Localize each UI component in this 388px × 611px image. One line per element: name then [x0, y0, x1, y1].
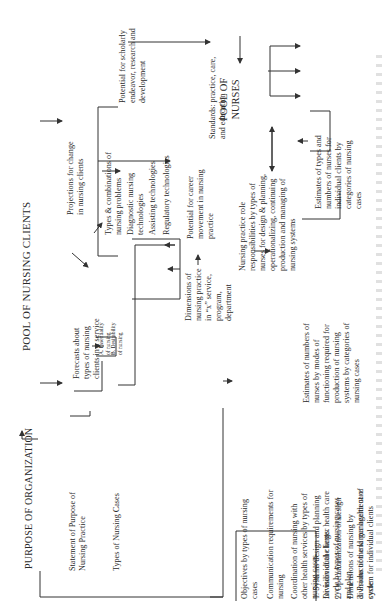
text-line: Nursing practice role	[238, 174, 248, 271]
node-standards: Standards: practice, care, and education	[208, 57, 228, 139]
text-line: Coordination of nursing with	[290, 493, 300, 599]
node-role-responsibilities: Nursing practice role responsibilities b…	[238, 174, 298, 271]
diagram-canvas: POOL OF NURSING CLIENTS PURPOSE OF ORGAN…	[0, 0, 388, 611]
text-line: production and managing of	[278, 174, 288, 271]
text-line: functioning required for	[322, 323, 332, 403]
text-line: nursing problems	[114, 152, 124, 235]
text-line: other health services by types of	[300, 493, 310, 599]
text-line: Projections for change	[66, 141, 76, 215]
node-types-of-nursing-cases: Types of Nursing Cases	[112, 493, 122, 571]
text-line: systems by categories of	[342, 323, 352, 403]
figure-caption-faint	[376, 51, 382, 571]
node-career-potential: Potential for career movement in nursing…	[186, 169, 216, 239]
node-types-combinations: Types & combinations of nursing problems	[104, 152, 124, 235]
node-scholarly-potential: Potential for scholarly endeavor, resear…	[118, 28, 148, 103]
node-forecasts: Forecasts about types of nursing clients…	[72, 318, 102, 379]
text-line: cases	[250, 499, 260, 599]
text-line: and education	[218, 57, 228, 139]
pool-nurses-line-2: NURSES	[230, 78, 242, 121]
node-regulatory-tech: Regulatory technologies	[162, 155, 172, 235]
text-line: department	[224, 268, 234, 321]
text-line: nursing practice	[194, 268, 204, 321]
text-line: nursing	[276, 490, 286, 599]
text-line: cases	[354, 135, 364, 209]
text-line: in “x” service,	[204, 268, 214, 321]
node-statement-of-purpose: Statement of Purpose of Nursing Practice	[68, 492, 88, 571]
text-line: Diagnostic nursing	[126, 173, 136, 235]
text-line: individual clients by	[334, 135, 344, 209]
text-line: numbers of nurses for	[324, 135, 334, 209]
arrow-forecast-to-projection	[72, 253, 88, 267]
text-line: Statement of Purpose of	[68, 492, 78, 571]
heading-purpose-of-organization: PURPOSE OF ORGANIZATION	[22, 428, 35, 569]
text-line: movement in nursing	[196, 169, 206, 239]
text-line: program,	[214, 268, 224, 321]
text-line: Types & combinations of	[104, 152, 114, 235]
text-line: Communication requirements for	[266, 490, 276, 599]
text-line: categories of nursing	[344, 135, 354, 209]
title-pool-of-nursing-clients: POOL OF NURSING CLIENTS	[20, 202, 33, 351]
node-step-3: 3. Production and management of system f…	[356, 488, 376, 599]
node-step-1: 1. Systems design and planning for indiv…	[312, 496, 332, 599]
node-objectives: Objectives by types of nursing cases	[240, 499, 260, 599]
node-estimates-types: Estimates of types and numbers of nurses…	[314, 135, 364, 209]
text-line: for individual clients.	[322, 496, 332, 599]
text-line: technologies	[136, 173, 146, 235]
text-line: practice	[206, 169, 216, 239]
text-line: types of nursing	[82, 318, 92, 379]
text-line: responsibilities by types of	[248, 174, 258, 271]
line-left-loop	[40, 571, 223, 597]
text-line: Dimensions of	[184, 268, 194, 321]
node-step-2: 2. Operationalization of design and plan	[334, 498, 354, 599]
text-line: nursing systems	[288, 174, 298, 271]
node-dimensions-of-practice: Dimensions of nursing practice in “x” se…	[184, 268, 234, 321]
text-line: production of nursing	[332, 323, 342, 403]
text-line: Estimates of numbers of	[302, 323, 312, 403]
text-line: Standards: practice, care,	[208, 57, 218, 139]
node-diagnostic-tech: Diagnostic nursing technologies	[126, 173, 146, 235]
text-line: of nursing	[117, 323, 124, 355]
text-line: in nursing clients	[76, 141, 86, 215]
text-line: Nursing Practice	[78, 492, 88, 571]
text-line: 1. Systems design and planning	[312, 496, 322, 599]
node-communication: Communication requirements for nursing	[266, 490, 286, 599]
text-line: and plan	[344, 498, 354, 599]
text-line: Potential for career	[186, 169, 196, 239]
node-assisting-tech: Assisting technologies	[148, 161, 158, 235]
text-line: 2. Operationalization of design	[334, 498, 344, 599]
text-line: development	[138, 28, 148, 103]
text-line: nursing cases	[352, 323, 362, 403]
node-estimates-modes: Estimates of numbers of nurses by modes …	[302, 323, 362, 403]
text-line: system for individual clients	[366, 488, 376, 599]
text-line: nurses for design & planning,	[258, 174, 268, 271]
text-line: B. Desirability	[110, 323, 117, 355]
text-line: Forecasts about	[72, 318, 82, 379]
text-line: clients in a service	[92, 318, 102, 379]
text-line: Potential for scholarly	[118, 28, 128, 103]
text-line: nurses by modes of	[312, 323, 322, 403]
text-line: Objectives by types of nursing	[240, 499, 250, 599]
text-line: Estimates of types and	[314, 135, 324, 209]
text-line: endeavor, research and	[128, 28, 138, 103]
text-line: 3. Production and management of	[356, 488, 366, 599]
node-case-b: B. Desirability of nursing	[110, 323, 123, 355]
node-projections: Projections for change in nursing client…	[66, 141, 86, 215]
text-line: operationalizing, continuing	[268, 174, 278, 271]
